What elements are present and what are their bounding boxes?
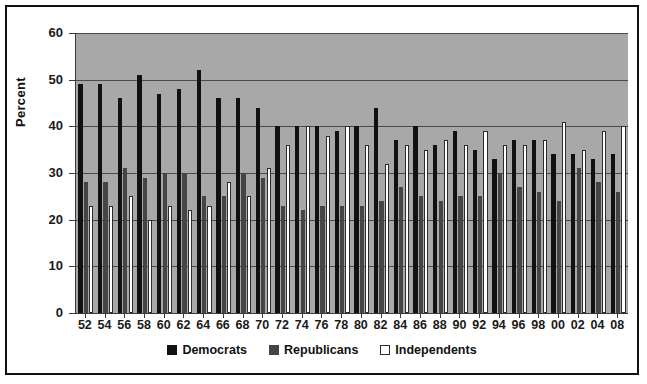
x-tick-label-62: 62: [172, 319, 194, 332]
bar-republicans-52: [84, 182, 88, 313]
bar-republicans-68: [241, 173, 245, 313]
x-tick-label-00: 00: [547, 319, 569, 332]
x-tick-label-98: 98: [527, 319, 549, 332]
bar-independents-66: [227, 182, 231, 313]
bar-independents-78: [345, 126, 349, 313]
bar-group-86: [411, 33, 431, 313]
bar-democrats-58: [137, 75, 141, 313]
bar-democrats-60: [157, 94, 161, 313]
bar-independents-56: [129, 196, 133, 313]
y-tick-label-40: 40: [29, 119, 63, 132]
bar-group-66: [214, 33, 234, 313]
legend-swatch-icon-democrats: [167, 345, 177, 355]
x-tick-label-52: 52: [74, 319, 96, 332]
bar-democrats-84: [394, 140, 398, 313]
bar-democrats-90: [453, 131, 457, 313]
x-tick-label-54: 54: [94, 319, 116, 332]
bars-layer: [76, 33, 628, 313]
bar-independents-54: [109, 206, 113, 313]
bar-group-94: [490, 33, 510, 313]
bar-independents-68: [247, 196, 251, 313]
bar-republicans-62: [182, 173, 186, 313]
bar-independents-58: [148, 220, 152, 313]
bar-group-96: [510, 33, 530, 313]
bar-republicans-96: [517, 187, 521, 313]
bar-group-98: [529, 33, 549, 313]
bar-republicans-64: [202, 196, 206, 313]
legend-item-democrats[interactable]: Democrats: [167, 343, 247, 357]
bar-democrats-70: [256, 108, 260, 313]
x-tick-label-64: 64: [192, 319, 214, 332]
bar-group-60: [155, 33, 175, 313]
bar-group-62: [175, 33, 195, 313]
x-tick-label-70: 70: [251, 319, 273, 332]
x-tick-label-68: 68: [232, 319, 254, 332]
chart-legend: DemocratsRepublicansIndependents: [7, 343, 637, 357]
bar-group-78: [332, 33, 352, 313]
bar-democrats-00: [551, 154, 555, 313]
bar-independents-90: [464, 145, 468, 313]
bar-republicans-02: [577, 168, 581, 313]
bar-group-00: [549, 33, 569, 313]
y-axis-title: Percent: [13, 77, 28, 127]
y-tick-label-30: 30: [29, 166, 63, 179]
legend-swatch-icon-republicans: [269, 345, 279, 355]
x-tick-label-84: 84: [389, 319, 411, 332]
legend-label: Democrats: [182, 343, 247, 357]
bar-republicans-94: [498, 173, 502, 313]
legend-label: Independents: [395, 343, 476, 357]
x-tick-label-76: 76: [310, 319, 332, 332]
bar-republicans-66: [222, 196, 226, 313]
legend-item-independents[interactable]: Independents: [380, 343, 476, 357]
bar-democrats-74: [295, 126, 299, 313]
x-tick-label-86: 86: [409, 319, 431, 332]
bar-democrats-82: [374, 108, 378, 313]
bar-republicans-82: [379, 201, 383, 313]
bar-democrats-62: [177, 89, 181, 313]
x-tick-label-88: 88: [429, 319, 451, 332]
bar-republicans-00: [557, 201, 561, 313]
bar-independents-80: [365, 145, 369, 313]
bar-independents-04: [602, 131, 606, 313]
bar-independents-72: [286, 145, 290, 313]
bar-democrats-76: [315, 126, 319, 313]
x-tick-label-66: 66: [212, 319, 234, 332]
bar-republicans-56: [123, 168, 127, 313]
bar-group-08: [608, 33, 628, 313]
x-tick-label-94: 94: [488, 319, 510, 332]
bar-independents-94: [503, 145, 507, 313]
bar-democrats-94: [492, 159, 496, 313]
y-tick-label-50: 50: [29, 73, 63, 86]
bar-independents-52: [89, 206, 93, 313]
x-tick-label-58: 58: [133, 319, 155, 332]
x-tick-label-92: 92: [468, 319, 490, 332]
bar-democrats-78: [335, 131, 339, 313]
bar-group-68: [234, 33, 254, 313]
bar-group-58: [135, 33, 155, 313]
bar-independents-62: [188, 210, 192, 313]
legend-item-republicans[interactable]: Republicans: [269, 343, 358, 357]
x-tick-label-02: 02: [567, 319, 589, 332]
legend-swatch-icon-independents: [380, 345, 390, 355]
x-tick-label-72: 72: [271, 319, 293, 332]
x-tick-label-60: 60: [153, 319, 175, 332]
bar-democrats-66: [216, 98, 220, 313]
bar-independents-02: [582, 150, 586, 313]
bar-democrats-80: [354, 126, 358, 313]
bar-republicans-76: [320, 206, 324, 313]
bar-democrats-96: [512, 140, 516, 313]
bar-republicans-72: [281, 206, 285, 313]
bar-republicans-58: [143, 178, 147, 313]
bar-group-90: [451, 33, 471, 313]
bar-group-52: [76, 33, 96, 313]
bar-group-04: [589, 33, 609, 313]
bar-independents-82: [385, 164, 389, 313]
bar-group-88: [431, 33, 451, 313]
bar-group-56: [115, 33, 135, 313]
bar-group-72: [273, 33, 293, 313]
bar-republicans-70: [261, 178, 265, 313]
bar-republicans-08: [616, 192, 620, 313]
bar-independents-74: [306, 126, 310, 313]
bar-republicans-88: [439, 201, 443, 313]
bar-republicans-80: [360, 206, 364, 313]
